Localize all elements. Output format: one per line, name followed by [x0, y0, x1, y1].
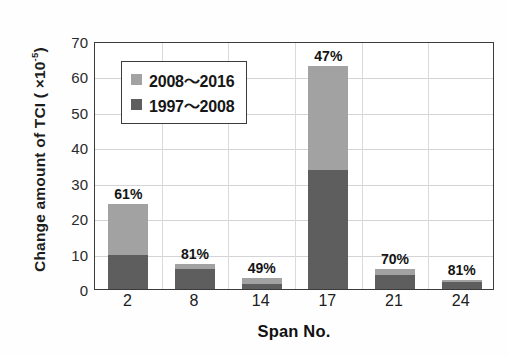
bar-17[interactable]: 47%	[308, 66, 348, 289]
x-axis-tick-labels: 2814172124	[94, 292, 494, 318]
bar-segment-1997-2008[interactable]	[375, 275, 415, 289]
legend-label: 2008〜2016	[149, 68, 234, 92]
x-axis-tick-label: 24	[452, 292, 470, 310]
bar-2[interactable]: 61%	[108, 204, 148, 289]
x-axis-tick-label: 8	[190, 292, 199, 310]
bar-21[interactable]: 70%	[375, 269, 415, 289]
bar-8[interactable]: 81%	[175, 264, 215, 289]
bar-value-label: 81%	[181, 246, 209, 262]
bar-24[interactable]: 81%	[442, 280, 482, 289]
bar-segment-1997-2008[interactable]	[108, 255, 148, 289]
y-axis-tick-label: 30	[71, 175, 88, 192]
plot-area: 61%81%49%47%70%81% 2008〜2016 1997〜2008	[94, 42, 494, 290]
y-axis-tick-label: 10	[71, 246, 88, 263]
bar-segment-2008-2016[interactable]	[108, 204, 148, 255]
legend-item-1997-2008: 1997〜2008	[131, 92, 234, 117]
bar-segment-2008-2016[interactable]	[308, 66, 348, 171]
y-axis-tick-label: 50	[71, 104, 88, 121]
bar-segment-1997-2008[interactable]	[175, 269, 215, 289]
y-axis-title-exponent: -5	[29, 53, 40, 62]
y-axis-tick-labels: 010203040506070	[46, 42, 88, 290]
x-axis-tick-label: 17	[318, 292, 336, 310]
y-axis-tick-label: 40	[71, 140, 88, 157]
chart-container: Change amount of TCI ( ×10-5) 0102030405…	[0, 0, 509, 357]
bar-segment-1997-2008[interactable]	[308, 170, 348, 289]
y-axis-tick-label: 0	[80, 282, 88, 299]
legend-swatch-icon	[131, 99, 142, 110]
legend-item-2008-2016: 2008〜2016	[131, 67, 234, 92]
bar-value-label: 47%	[314, 48, 342, 64]
y-axis-tick-label: 20	[71, 211, 88, 228]
bar-value-label: 81%	[448, 262, 476, 278]
x-axis-tick-label: 2	[123, 292, 132, 310]
x-axis-title: Span No.	[94, 322, 494, 341]
bar-value-label: 61%	[114, 186, 142, 202]
x-axis-tick-label: 21	[385, 292, 403, 310]
bar-value-label: 49%	[248, 260, 276, 276]
y-axis-tick-label: 60	[71, 69, 88, 86]
bar-14[interactable]: 49%	[242, 278, 282, 289]
legend-swatch-icon	[131, 74, 142, 85]
bar-value-label: 70%	[381, 251, 409, 267]
x-axis-tick-label: 14	[252, 292, 270, 310]
bar-segment-1997-2008[interactable]	[442, 282, 482, 289]
legend: 2008〜2016 1997〜2008	[121, 61, 247, 124]
y-axis-tick-label: 70	[71, 34, 88, 51]
legend-label: 1997〜2008	[149, 93, 234, 117]
bar-segment-1997-2008[interactable]	[242, 284, 282, 289]
